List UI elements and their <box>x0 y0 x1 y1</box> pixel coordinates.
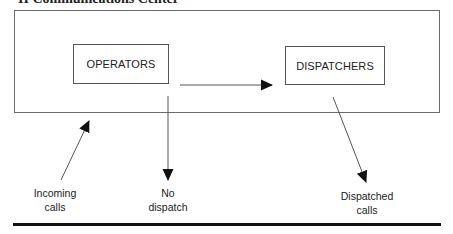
dispatched-arrow-icon <box>333 97 366 182</box>
dispatched-line1: Dispatched <box>341 189 394 203</box>
no-dispatch-line1: No <box>148 186 187 200</box>
dispatched-calls-label: Dispatched calls <box>341 189 394 217</box>
no-dispatch-line2: dispatch <box>148 200 187 214</box>
no-dispatch-label: No dispatch <box>148 186 187 214</box>
incoming-line2: calls <box>34 200 77 214</box>
incoming-arrow-icon <box>61 121 89 180</box>
incoming-line1: Incoming <box>34 186 77 200</box>
dispatched-line2: calls <box>341 203 394 217</box>
incoming-calls-label: Incoming calls <box>34 186 77 214</box>
bottom-rule-divider <box>13 223 441 226</box>
